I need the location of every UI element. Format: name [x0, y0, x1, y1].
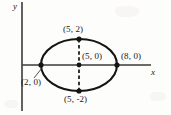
label-left-vertex: (2, 0) — [21, 78, 41, 87]
label-bottom-vertex: (5, -2) — [64, 95, 87, 104]
y-axis-label: y — [13, 2, 17, 11]
label-top-vertex: (5, 2) — [63, 25, 83, 34]
ellipse-figure: y x (5, 2) (5, 0) (8, 0) (2, 0) (5, -2) — [0, 0, 171, 115]
x-axis-label: x — [151, 68, 155, 77]
bottom-vertex-dot — [76, 88, 81, 93]
center-dot — [77, 63, 82, 68]
label-right-vertex: (8, 0) — [121, 52, 141, 61]
top-vertex-dot — [76, 36, 81, 41]
left-vertex-dot — [38, 62, 43, 67]
label-center-point: (5, 0) — [82, 52, 102, 61]
right-vertex-dot — [114, 62, 119, 67]
